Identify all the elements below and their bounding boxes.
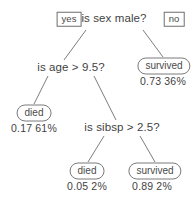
edge-root-to-age xyxy=(64,30,86,60)
node-age-question[interactable]: is age > 9.5? xyxy=(37,62,104,74)
edge-sibsp-to-survived xyxy=(140,136,155,162)
edge-age-to-died xyxy=(34,76,48,104)
leaf-died-bottom-percent: 2% xyxy=(91,180,107,192)
leaf-survived-bottom-prob: 0.89 xyxy=(132,180,153,192)
edge-root-to-survived xyxy=(143,30,163,57)
leaf-died-bottom-stats: 0.052% xyxy=(67,181,107,192)
edge-label-no[interactable]: no xyxy=(164,12,185,27)
leaf-survived-right-stats: 0.7336% xyxy=(140,76,186,87)
leaf-survived-bottom-percent: 2% xyxy=(156,180,172,192)
leaf-died-left-prob: 0.17 xyxy=(11,122,32,134)
leaf-survived-right[interactable]: survived xyxy=(137,58,190,75)
edge-sibsp-to-died xyxy=(88,136,104,162)
leaf-died-left[interactable]: died xyxy=(17,105,52,122)
leaf-survived-right-percent: 36% xyxy=(164,75,186,87)
leaf-died-bottom[interactable]: died xyxy=(70,163,105,180)
leaf-died-left-stats: 0.1761% xyxy=(11,123,57,134)
node-root-question[interactable]: is sex male? xyxy=(81,13,146,25)
leaf-died-left-percent: 61% xyxy=(35,122,57,134)
edge-label-yes[interactable]: yes xyxy=(57,12,82,27)
leaf-survived-right-prob: 0.73 xyxy=(140,75,161,87)
leaf-survived-bottom-stats: 0.892% xyxy=(132,181,172,192)
leaf-survived-bottom[interactable]: survived xyxy=(128,163,181,180)
edge-age-to-sibsp xyxy=(94,76,116,120)
node-sibsp-question[interactable]: is sibsp > 2.5? xyxy=(84,122,159,134)
leaf-died-bottom-prob: 0.05 xyxy=(67,180,88,192)
